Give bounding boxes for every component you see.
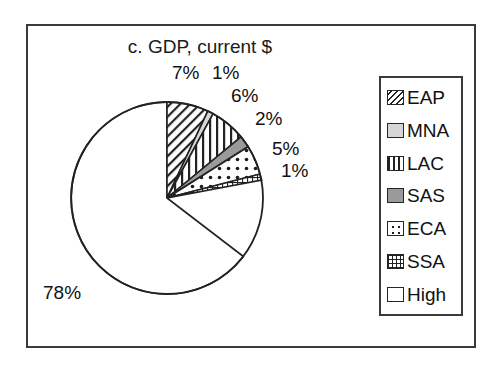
legend-item-lac[interactable]: LAC [387, 148, 461, 178]
legend-item-label: MNA [407, 121, 449, 140]
pie-label-high: 78% [43, 282, 81, 304]
page-title: c. GDP, current $ [60, 36, 340, 58]
vertical-bars-swatch-icon [387, 156, 404, 171]
legend-item-eca[interactable]: ECA [387, 214, 461, 244]
legend-item-label: SSA [407, 252, 445, 271]
legend-item-mna[interactable]: MNA [387, 115, 461, 145]
figure-root: c. GDP, current $ [0, 0, 494, 366]
legend-item-label: LAC [407, 154, 444, 173]
pie-label-eap: 7% [172, 62, 199, 84]
legend-item-sas[interactable]: SAS [387, 181, 461, 211]
grid-swatch-icon [387, 254, 404, 269]
legend: EAP MNA LAC SAS ECA SSA [379, 76, 463, 316]
pie-label-mna: 1% [212, 62, 239, 84]
legend-item-label: SAS [407, 186, 445, 205]
dots-swatch-icon [387, 221, 404, 236]
legend-item-label: EAP [407, 88, 445, 107]
pie-chart [62, 92, 272, 306]
pie-svg [62, 92, 272, 306]
pie-label-ssa: 1% [281, 160, 308, 182]
pie-label-sas: 2% [255, 108, 282, 130]
legend-item-high[interactable]: High [387, 279, 461, 309]
legend-item-label: High [407, 285, 446, 304]
legend-item-eap[interactable]: EAP [387, 82, 461, 112]
legend-item-label: ECA [407, 219, 446, 238]
legend-list: EAP MNA LAC SAS ECA SSA [381, 78, 461, 314]
light-gray-swatch-icon [387, 123, 404, 138]
white-swatch-icon [387, 287, 404, 302]
diagonal-stripes-swatch-icon [387, 90, 404, 105]
mid-gray-swatch-icon [387, 188, 404, 203]
legend-item-ssa[interactable]: SSA [387, 247, 461, 277]
pie-label-eca: 5% [272, 138, 299, 160]
pie-label-lac: 6% [231, 85, 258, 107]
